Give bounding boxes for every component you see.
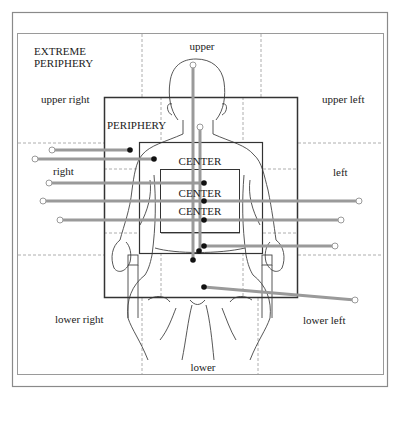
zone-label-lower-right: lower right bbox=[55, 313, 104, 325]
zone-label-right: right bbox=[53, 165, 74, 177]
periphery-label: PERIPHERY bbox=[107, 119, 166, 131]
zone-label-upper-right: upper right bbox=[41, 93, 90, 105]
zone-label-upper: upper bbox=[189, 40, 214, 52]
zone-label-lower-left: lower left bbox=[303, 314, 345, 326]
center-label-1: CENTER bbox=[179, 155, 222, 167]
zone-label-upper-left: upper left bbox=[322, 93, 364, 105]
zone-label-left: left bbox=[333, 166, 348, 178]
extreme-periphery-label: EXTREME PERIPHERY bbox=[34, 45, 93, 69]
attention-zones-diagram: EXTREME PERIPHERY upper upper right uppe… bbox=[0, 0, 400, 430]
zone-label-lower: lower bbox=[190, 361, 215, 373]
center-label-3: CENTER bbox=[179, 205, 222, 217]
center-label-2: CENTER bbox=[179, 187, 222, 199]
extreme-periphery-line1: EXTREME bbox=[34, 45, 93, 57]
extreme-periphery-line2: PERIPHERY bbox=[34, 57, 93, 69]
